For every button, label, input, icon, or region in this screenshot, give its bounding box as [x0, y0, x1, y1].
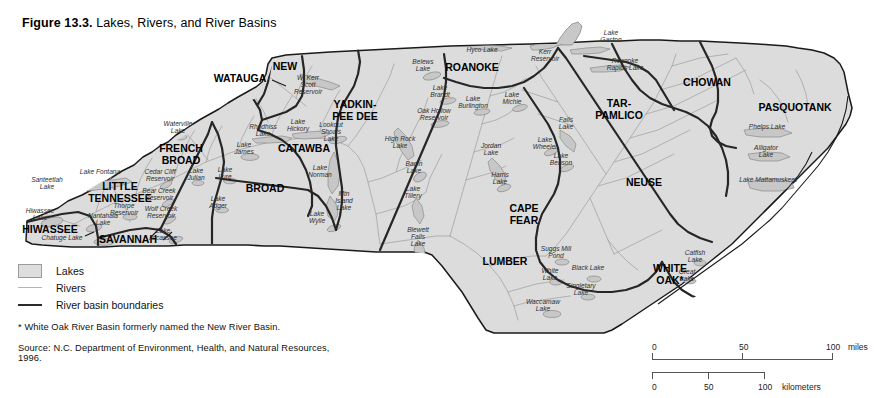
lake-label-black-lake: Black Lake	[572, 264, 605, 271]
scale-miles-tick-1: 50	[739, 342, 748, 352]
lake-label-lake-gaston: LakeGaston	[600, 29, 622, 43]
lake-label-phelps-lake: Phelps Lake	[749, 123, 786, 131]
basin-label-cape-fear: CAPEFEAR	[509, 202, 538, 226]
basin-boundary-line-icon	[18, 304, 48, 306]
legend-label-lakes: Lakes	[48, 265, 84, 277]
lake-label-great-lake: GreatLake	[679, 268, 697, 282]
lake-label-oak-hollow-reservoir: Oak HollowReservoir	[417, 107, 452, 121]
lake-label-wolf-creek-reservoir: Wolf CreekReservoir	[145, 205, 178, 219]
legend-item-lakes: Lakes	[18, 262, 348, 279]
scale-bars: 0 50 100 miles 0 50 100 kilometers	[652, 342, 864, 398]
basin-label-catawba: CATAWBA	[278, 142, 331, 154]
lake-label-lake-michie: LakeMichie	[502, 91, 521, 105]
legend-label-basin-boundaries: River basin boundaries	[48, 299, 163, 311]
lake-label-lake-adger: LakeAdger	[208, 195, 227, 210]
scale-bar-kilometers: 0 50 100 kilometers	[652, 372, 864, 398]
legend-label-rivers: Rivers	[48, 282, 86, 294]
lake-label-lake-mattamuskeet: Lake Mattamuskeet	[739, 176, 798, 183]
map-legend: Lakes Rivers River basin boundaries * Wh…	[18, 262, 348, 363]
rivers-line-icon	[18, 287, 48, 288]
lake-label-santeetlah-lake: SanteetlahLake	[31, 176, 63, 190]
lakes-swatch-icon	[18, 264, 48, 278]
lake-label-lake-fontana: Lake Fontana	[80, 168, 121, 175]
legend-item-basin-boundaries: River basin boundaries	[18, 296, 348, 313]
lake-label-lake-wylie: LakeWylie	[309, 210, 325, 225]
lake-label-white-lake: WhiteLake	[542, 267, 559, 281]
lake-label-bear-creek-reservoir: Bear CreekReservoir	[142, 187, 176, 201]
scale-miles-tick-0: 0	[652, 342, 657, 352]
basin-label-roanoke: ROANOKE	[445, 61, 499, 73]
basin-label-chowan: CHOWAN	[683, 76, 731, 88]
lake-label-lake-tillery: LakeTillery	[404, 185, 422, 200]
scale-km-unit: kilometers	[782, 382, 821, 392]
lake-label-chatuge-lake: Chatuge Lake	[41, 234, 82, 242]
scale-miles-tick-2: 100	[826, 342, 840, 352]
lake-label-cedar-cliff-reservoir: Cedar CliffReservoir	[144, 168, 176, 182]
scale-miles-unit: miles	[848, 342, 868, 352]
lake-label-roanoke-rapids-lake: RoanokeRapids Lake	[607, 57, 644, 72]
basin-label-watauga: WATAUGA	[214, 72, 267, 84]
basin-label-pasquotank: PASQUOTANK	[758, 101, 832, 113]
scale-km-tick-2: 100	[758, 382, 772, 392]
basin-label-french-broad: FRENCHBROAD	[159, 142, 203, 166]
basin-label-broad: BROAD	[246, 182, 285, 194]
legend-item-rivers: Rivers	[18, 279, 348, 296]
basin-label-neuse: NEUSE	[626, 176, 662, 188]
lake-label-lake-lure: LakeLure	[218, 166, 233, 180]
lake-label-lake-julian: LakeJulian	[186, 167, 205, 181]
source-note: Source: N.C. Department of Environment, …	[18, 343, 348, 363]
lake-label-badin-lake: BadinLake	[406, 160, 423, 174]
lake-label-harris-lake: HarrisLake	[491, 171, 509, 185]
basin-label-new: NEW	[273, 60, 298, 72]
scale-km-tick-0: 0	[652, 382, 657, 392]
basin-label-lumber: LUMBER	[483, 255, 528, 267]
scale-km-tick-1: 50	[704, 382, 713, 392]
scale-bar-miles: 0 50 100 miles	[652, 342, 864, 368]
lake-label-hyco-lake: Hyco Lake	[466, 46, 497, 54]
lake-label-falls-lake: FallsLake	[559, 116, 574, 130]
basin-label-yadkin-pee-dee: YADKIN-PEE DEE	[332, 98, 378, 122]
footnote: * White Oak River Basin formerly named t…	[18, 322, 348, 332]
